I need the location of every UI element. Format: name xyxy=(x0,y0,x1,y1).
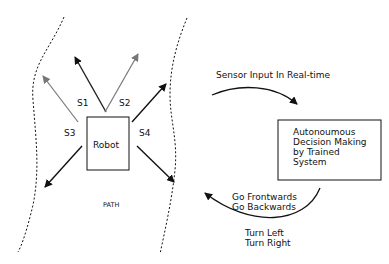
decision-line-2: Decision Making xyxy=(293,137,367,147)
decision-line-3: by Trained xyxy=(293,147,340,157)
sensor-label-s4: S4 xyxy=(139,128,150,138)
arrow-s4-down xyxy=(137,146,174,182)
arrow-s3-up xyxy=(43,76,78,122)
right-path-boundary xyxy=(160,18,187,254)
decision-line-4: System xyxy=(293,157,327,167)
sensor-label-s1: S1 xyxy=(77,98,88,108)
movement-go-frontwards: Go Frontwards xyxy=(232,192,297,202)
arrow-s4-up xyxy=(132,84,166,122)
movement-turn-left: Turn Left xyxy=(245,228,284,238)
path-label: PATH xyxy=(103,200,119,210)
sensor-label-s2: S2 xyxy=(119,98,130,108)
diagram-canvas: Robot S1 S2 S3 S4 PATH Sensor Input In R… xyxy=(0,0,389,264)
arrow-s3-down xyxy=(45,146,82,187)
robot-label: Robot xyxy=(93,140,119,150)
movement-turn-right: Turn Right xyxy=(245,238,291,248)
sensor-input-label: Sensor Input In Real-time xyxy=(216,70,330,80)
decision-line-1: Autonoumous xyxy=(293,127,355,137)
movement-go-backwards: Go Backwards xyxy=(232,202,296,212)
sensor-label-s3: S3 xyxy=(64,128,75,138)
sensor-input-arrow xyxy=(212,88,297,104)
left-path-boundary xyxy=(18,17,64,252)
